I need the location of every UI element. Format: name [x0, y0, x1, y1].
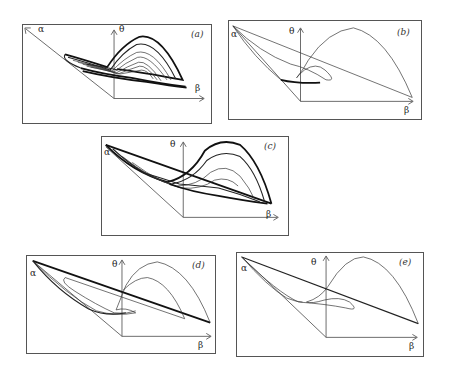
axis-label-alpha: α	[30, 268, 36, 278]
axis-label-alpha: α	[241, 263, 247, 273]
axis-label-theta: θ	[311, 257, 316, 267]
axis-label-beta: β	[404, 105, 409, 115]
panel-label-c: (c)	[264, 141, 276, 151]
panel-label-a: (a)	[191, 29, 203, 39]
axis-label-beta: β	[198, 340, 203, 350]
axis-label-beta: β	[266, 209, 271, 219]
phase-portrait-b	[229, 21, 421, 119]
panel-label-b: (b)	[397, 27, 410, 37]
phase-portrait-c	[102, 137, 288, 235]
axis-label-alpha: α	[38, 24, 44, 34]
axis-label-theta: θ	[119, 24, 124, 34]
axis-label-beta: β	[409, 341, 414, 351]
panel-label-d: (d)	[192, 260, 205, 270]
axis-label-theta: θ	[170, 139, 175, 149]
phase-portrait-d	[27, 256, 215, 353]
panel-d: α θ β (d)	[26, 255, 216, 354]
panel-label-e: (e)	[399, 257, 411, 267]
axis-label-theta: θ	[289, 26, 294, 36]
panel-c: α θ β (c)	[101, 136, 289, 236]
panel-b: α θ β (b)	[228, 20, 422, 120]
phase-portrait-a	[23, 25, 211, 123]
panel-e: α θ β (e)	[236, 252, 424, 357]
axis-label-alpha: α	[231, 29, 237, 39]
axis-label-theta: θ	[112, 259, 117, 269]
phase-portrait-e	[237, 253, 423, 356]
axis-label-alpha: α	[104, 147, 110, 157]
axis-label-beta: β	[195, 83, 200, 93]
panel-a: α θ β (a)	[22, 24, 212, 124]
